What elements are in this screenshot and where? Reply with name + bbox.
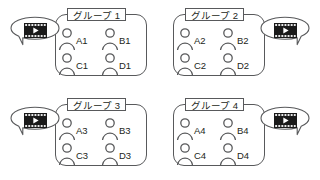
- video-speech-bubble-1[interactable]: [8, 16, 62, 46]
- group-label-3: グループ 3: [67, 98, 126, 111]
- member-label: B2: [237, 35, 249, 46]
- person-icon: [219, 27, 239, 50]
- person-icon: [176, 142, 196, 165]
- person-icon: [101, 52, 121, 75]
- member-label: C3: [76, 150, 88, 161]
- member-item[interactable]: C1: [58, 51, 100, 76]
- member-item[interactable]: D1: [101, 51, 143, 76]
- member-label: B4: [237, 125, 249, 136]
- film-play-icon: [274, 113, 297, 128]
- member-item[interactable]: B1: [101, 26, 143, 51]
- member-label: C4: [194, 150, 206, 161]
- member-label: A1: [76, 35, 88, 46]
- member-item[interactable]: C3: [58, 141, 100, 166]
- person-icon: [219, 142, 239, 165]
- member-label: B1: [119, 35, 131, 46]
- group-label-1: グループ 1: [67, 8, 126, 21]
- member-item[interactable]: D2: [219, 51, 261, 76]
- person-icon: [101, 142, 121, 165]
- person-icon: [176, 117, 196, 140]
- person-icon: [176, 52, 196, 75]
- member-label: A2: [194, 35, 206, 46]
- film-play-icon: [24, 113, 47, 128]
- member-label: D3: [119, 150, 131, 161]
- video-speech-bubble-2[interactable]: [258, 16, 312, 46]
- member-item[interactable]: B4: [219, 116, 261, 141]
- member-item[interactable]: A4: [176, 116, 218, 141]
- member-label: A3: [76, 125, 88, 136]
- group-members-3: A3 B3 C3 D3: [55, 116, 147, 168]
- member-item[interactable]: C4: [176, 141, 218, 166]
- member-label: D1: [119, 60, 131, 71]
- member-item[interactable]: D3: [101, 141, 143, 166]
- film-play-icon: [24, 23, 47, 38]
- film-play-icon: [274, 23, 297, 38]
- member-item[interactable]: D4: [219, 141, 261, 166]
- member-label: C2: [194, 60, 206, 71]
- person-icon: [219, 52, 239, 75]
- person-icon: [101, 27, 121, 50]
- group-cell-2: グループ 2 A2 B2 C2: [160, 0, 320, 90]
- member-item[interactable]: A1: [58, 26, 100, 51]
- person-icon: [219, 117, 239, 140]
- person-icon: [176, 27, 196, 50]
- member-label: C1: [76, 60, 88, 71]
- member-item[interactable]: A2: [176, 26, 218, 51]
- group-label-2: グループ 2: [185, 8, 244, 21]
- diagram-canvas: グループ 1 A1 B1 C1: [0, 0, 320, 180]
- member-label: D2: [237, 60, 249, 71]
- member-item[interactable]: A3: [58, 116, 100, 141]
- group-members-1: A1 B1 C1 D1: [55, 26, 147, 78]
- member-label: A4: [194, 125, 206, 136]
- member-item[interactable]: C2: [176, 51, 218, 76]
- member-label: D4: [237, 150, 249, 161]
- member-item[interactable]: B2: [219, 26, 261, 51]
- member-item[interactable]: B3: [101, 116, 143, 141]
- group-cell-3: グループ 3 A3 B3 C3: [0, 90, 160, 180]
- member-label: B3: [119, 125, 131, 136]
- video-speech-bubble-3[interactable]: [8, 106, 62, 136]
- group-cell-4: グループ 4 A4 B4 C4: [160, 90, 320, 180]
- group-members-4: A4 B4 C4 D4: [173, 116, 265, 168]
- person-icon: [58, 142, 78, 165]
- group-cell-1: グループ 1 A1 B1 C1: [0, 0, 160, 90]
- person-icon: [101, 117, 121, 140]
- group-label-4: グループ 4: [185, 98, 244, 111]
- video-speech-bubble-4[interactable]: [258, 106, 312, 136]
- group-members-2: A2 B2 C2 D2: [173, 26, 265, 78]
- person-icon: [58, 52, 78, 75]
